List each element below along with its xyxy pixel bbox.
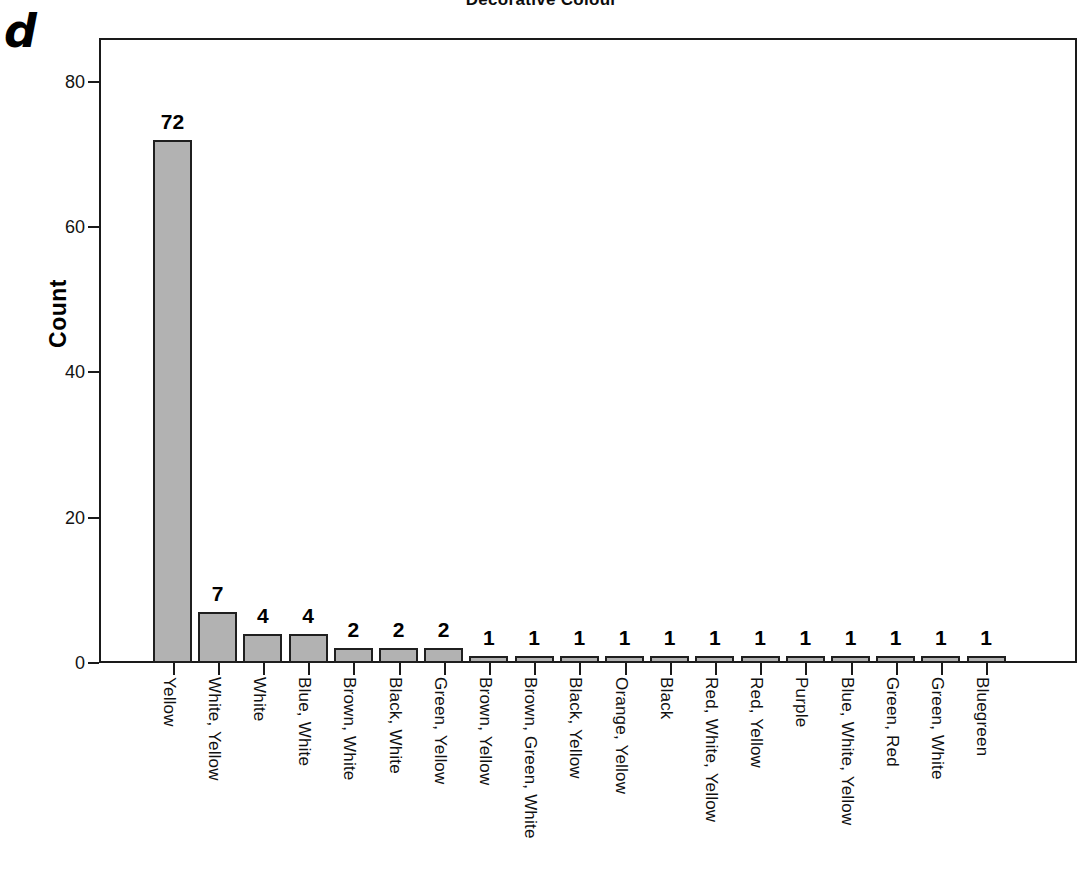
bar-group[interactable]: 1: [786, 38, 825, 663]
bar-rect[interactable]: [289, 634, 328, 663]
x-tick-mark: [896, 663, 898, 675]
x-tick-label: Black, White: [385, 677, 405, 774]
x-tick-label: Green, White: [927, 677, 947, 780]
bar-group[interactable]: 1: [560, 38, 599, 663]
bar-rect[interactable]: [334, 648, 373, 663]
bar-group[interactable]: 4: [243, 38, 282, 663]
bars-layer: 72744222111111111111: [99, 38, 1077, 663]
bar-rect[interactable]: [831, 656, 870, 663]
bar-rect[interactable]: [786, 656, 825, 663]
x-tick-label: Green, Red: [882, 677, 902, 767]
x-tick-label: White: [249, 677, 269, 721]
x-tick-mark: [805, 663, 807, 675]
x-tick-label: White, Yellow: [204, 677, 224, 781]
bar-value-label: 1: [845, 627, 857, 648]
x-tick-mark: [941, 663, 943, 675]
bar-group[interactable]: 4: [289, 38, 328, 663]
x-axis: YellowWhite, YellowWhiteBlue, WhiteBrown…: [99, 663, 1077, 873]
x-tick-label: Green, Yellow: [430, 677, 450, 785]
bar-value-label: 1: [890, 627, 902, 648]
figure-panel-d: Decorative Colour d Count 020406080 7274…: [0, 0, 1083, 873]
x-tick-label: Red, White, Yellow: [701, 677, 721, 822]
y-tick-mark: [88, 662, 99, 664]
bar-rect[interactable]: [605, 656, 644, 663]
x-tick-label: Brown, Green, White: [520, 677, 540, 839]
x-tick-mark: [851, 663, 853, 675]
bar-group[interactable]: 1: [605, 38, 644, 663]
x-tick-label: Blue, White, Yellow: [837, 677, 857, 825]
y-axis: 020406080: [55, 38, 99, 663]
y-tick-label: 40: [45, 362, 85, 383]
bar-value-label: 1: [483, 627, 495, 648]
bar-rect[interactable]: [515, 656, 554, 663]
bar-value-label: 2: [438, 619, 450, 640]
bar-group[interactable]: 1: [967, 38, 1006, 663]
x-tick-mark: [308, 663, 310, 675]
bar-value-label: 1: [799, 627, 811, 648]
bar-value-label: 4: [302, 605, 314, 626]
y-tick-mark: [88, 371, 99, 373]
x-tick-label: Orange, Yellow: [611, 677, 631, 794]
x-tick-mark: [489, 663, 491, 675]
bar-rect[interactable]: [650, 656, 689, 663]
x-tick-mark: [579, 663, 581, 675]
x-tick-mark: [263, 663, 265, 675]
bar-rect[interactable]: [198, 612, 237, 663]
bar-rect[interactable]: [153, 140, 192, 663]
x-tick-mark: [534, 663, 536, 675]
x-tick-mark: [670, 663, 672, 675]
x-tick-mark: [760, 663, 762, 675]
bar-group[interactable]: 1: [469, 38, 508, 663]
bar-rect[interactable]: [921, 656, 960, 663]
bar-value-label: 1: [754, 627, 766, 648]
bar-rect[interactable]: [424, 648, 463, 663]
bar-value-label: 2: [347, 619, 359, 640]
y-tick-mark: [88, 517, 99, 519]
bar-group[interactable]: 2: [379, 38, 418, 663]
bar-rect[interactable]: [967, 656, 1006, 663]
bar-rect[interactable]: [695, 656, 734, 663]
x-tick-mark: [399, 663, 401, 675]
y-tick-mark: [88, 226, 99, 228]
bar-group[interactable]: 1: [515, 38, 554, 663]
bar-rect[interactable]: [379, 648, 418, 663]
bar-value-label: 1: [980, 627, 992, 648]
bar-group[interactable]: 72: [153, 38, 192, 663]
bar-group[interactable]: 1: [876, 38, 915, 663]
bar-value-label: 1: [528, 627, 540, 648]
x-tick-label: Black, Yellow: [565, 677, 585, 779]
x-tick-label: Bluegreen: [972, 677, 992, 756]
x-tick-mark: [173, 663, 175, 675]
bar-value-label: 4: [257, 605, 269, 626]
bar-value-label: 72: [161, 111, 184, 132]
bar-group[interactable]: 1: [831, 38, 870, 663]
x-tick-mark: [715, 663, 717, 675]
bar-rect[interactable]: [741, 656, 780, 663]
bar-group[interactable]: 1: [695, 38, 734, 663]
y-tick-label: 0: [45, 653, 85, 674]
bar-rect[interactable]: [243, 634, 282, 663]
panel-letter: d: [4, 8, 36, 54]
x-tick-label: Brown, Yellow: [475, 677, 495, 785]
bar-group[interactable]: 1: [741, 38, 780, 663]
x-tick-mark: [986, 663, 988, 675]
y-tick-mark: [88, 81, 99, 83]
y-tick-label: 20: [45, 507, 85, 528]
bar-rect[interactable]: [560, 656, 599, 663]
bar-value-label: 7: [212, 583, 224, 604]
x-tick-label: Blue, White: [294, 677, 314, 766]
bar-rect[interactable]: [876, 656, 915, 663]
x-tick-mark: [353, 663, 355, 675]
bar-group[interactable]: 1: [921, 38, 960, 663]
x-tick-label: Black: [656, 677, 676, 720]
bar-group[interactable]: 7: [198, 38, 237, 663]
y-tick-label: 80: [45, 71, 85, 92]
bar-group[interactable]: 1: [650, 38, 689, 663]
bar-value-label: 1: [619, 627, 631, 648]
bar-group[interactable]: 2: [424, 38, 463, 663]
bar-group[interactable]: 2: [334, 38, 373, 663]
bar-value-label: 1: [573, 627, 585, 648]
x-tick-mark: [444, 663, 446, 675]
bar-value-label: 1: [664, 627, 676, 648]
bar-rect[interactable]: [469, 656, 508, 663]
